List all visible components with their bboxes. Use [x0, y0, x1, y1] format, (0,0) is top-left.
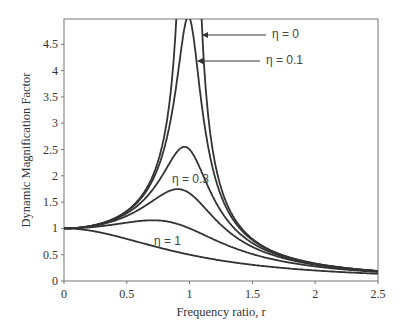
y-tick-label: 1.5	[43, 195, 58, 209]
y-tick-label: 3.5	[43, 90, 58, 104]
x-tick-label: 0	[61, 287, 67, 301]
y-tick-label: 2	[52, 169, 58, 183]
annotation-label: η = 0	[272, 27, 299, 41]
x-tick-label: 1	[187, 287, 193, 301]
x-tick-label: 2	[312, 287, 318, 301]
annotation-label: η = 0.1	[266, 53, 303, 67]
y-tick-label: 0	[52, 274, 58, 288]
y-axis: 00.511.522.533.544.5	[43, 37, 64, 288]
x-tick-label: 2.5	[371, 287, 386, 301]
annotation-label: η = 0.3	[172, 172, 209, 186]
y-axis-title: Dynamic Magnification Factor	[19, 72, 33, 228]
x-axis: 00.511.522.5	[61, 281, 386, 301]
y-tick-label: 1	[52, 221, 58, 235]
y-tick-label: 2.5	[43, 143, 58, 157]
y-tick-label: 3	[52, 116, 58, 130]
y-tick-label: 4	[52, 64, 58, 78]
x-tick-label: 0.5	[119, 287, 134, 301]
x-axis-title: Frequency ratio, r	[176, 305, 266, 319]
x-tick-label: 1.5	[245, 287, 260, 301]
annotation-label: η = 1	[154, 234, 181, 248]
y-tick-label: 4.5	[43, 37, 58, 51]
dmf-chart: 00.511.522.5 00.511.522.533.544.5 Freque…	[0, 0, 404, 332]
y-tick-label: 0.5	[43, 248, 58, 262]
